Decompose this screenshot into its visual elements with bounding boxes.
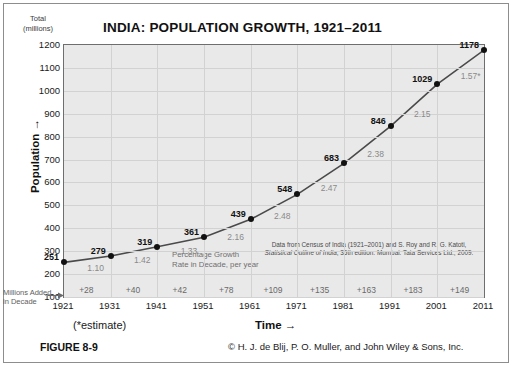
millions-added-row: +28+40+42+78+109+135+163+183+149 [63,285,485,298]
millions-added-cell: +40 [110,285,157,295]
data-point-label: 439 [231,209,249,219]
x-axis-tick-label: 1951 [183,300,223,311]
growth-rate-label: 1.33 [181,246,198,256]
arrow-right-icon [48,291,64,300]
millions-added-cell: +109 [250,285,297,295]
data-point-label: 361 [184,227,202,237]
gridline-vertical [391,45,392,297]
plot-area: Percentage Growth Rate in Decade, per ye… [63,44,485,298]
millions-added-cell: +149 [436,285,483,295]
estimate-note: (*estimate) [73,319,126,331]
gridline-horizontal [64,228,484,229]
gridline-vertical [344,45,345,297]
millions-added-cell: +163 [343,285,390,295]
x-axis-tick-label: 2011 [463,300,503,311]
data-point-label: 251 [44,252,62,262]
chart-title: INDIA: POPULATION GROWTH, 1921–2011 [103,20,382,35]
x-axis-title: Time → [255,319,296,331]
millions-added-cell: +42 [156,285,203,295]
growth-rate-label: 1.57* [461,71,481,81]
y-axis-tick-label: 800 [14,130,60,141]
gridline-horizontal [64,182,484,183]
data-point-label: 319 [137,237,155,247]
gridline-horizontal [64,68,484,69]
millions-added-cell: +78 [203,285,250,295]
x-axis-tick-label: 1961 [230,300,270,311]
y-axis-tick-label: 1000 [14,84,60,95]
y-axis-tick-label: 500 [14,199,60,210]
millions-added-cell: +135 [296,285,343,295]
growth-rate-label: 2.15 [414,109,431,119]
gridline-horizontal [64,160,484,161]
y-axis-tick-label: 600 [14,176,60,187]
gridline-vertical [111,45,112,297]
source-line2-rest: , 35th edition. Mumbai: Tata Services Lt… [337,249,474,256]
data-source-note: Data from Census of India (1921–2001) an… [259,241,479,257]
x-axis-tick-label: 1931 [90,300,130,311]
gridline-vertical [157,45,158,297]
data-point-label: 1029 [412,74,435,84]
gridline-vertical [251,45,252,297]
gridline-horizontal [64,274,484,275]
data-point-label: 846 [371,116,389,126]
growth-rate-label: 1.42 [134,255,151,265]
figure-container: INDIA: POPULATION GROWTH, 1921–2011 Tota… [0,0,513,366]
data-point-label: 683 [324,153,342,163]
growth-rate-label: 2.48 [274,211,291,221]
millions-added-cell: +28 [63,285,110,295]
figure-number: FIGURE 8-9 [40,341,98,353]
millions-added-cell: +183 [390,285,437,295]
y-axis-tick-label: 900 [14,107,60,118]
data-point-label: 279 [91,246,109,256]
x-axis-tick-label: 1921 [43,300,83,311]
y-axis-tick-label: 700 [14,153,60,164]
y-axis-unit-line2: (millions) [12,24,64,34]
x-axis-tick-label: 1981 [323,300,363,311]
y-axis-tick-label: 1200 [14,39,60,50]
gridline-horizontal [64,251,484,252]
y-axis-tick-label: 400 [14,222,60,233]
y-axis-unit-line1: Total [12,14,64,24]
gridline-horizontal [64,137,484,138]
x-axis-tick-label: 1971 [276,300,316,311]
growth-rate-legend-line2: Rate in Decade, per year [172,260,259,270]
growth-rate-label: 1.10 [87,263,104,273]
x-axis-tick-label: 1991 [370,300,410,311]
growth-rate-label: 2.16 [227,232,244,242]
gridline-vertical [297,45,298,297]
data-point-label: 548 [277,184,295,194]
growth-rate-label: 2.47 [321,183,338,193]
copyright-line: © H. J. de Blij, P. O. Muller, and John … [228,341,463,352]
y-axis-tick-label: 1100 [14,61,60,72]
y-axis-tick-label: 200 [14,268,60,279]
gridline-vertical [204,45,205,297]
growth-rate-label: 2.38 [367,149,384,159]
x-axis-tick-label: 2001 [416,300,456,311]
y-axis-unit-caption: Total (millions) [12,14,64,33]
gridline-horizontal [64,205,484,206]
gridline-horizontal [64,91,484,92]
data-point-label: 1178 [459,40,482,50]
x-axis-tick-labels: 1921193119411951196119711981199120012011 [63,300,485,314]
source-line2-italic: Statistical Outline of India [265,249,337,256]
x-axis-tick-label: 1941 [136,300,176,311]
